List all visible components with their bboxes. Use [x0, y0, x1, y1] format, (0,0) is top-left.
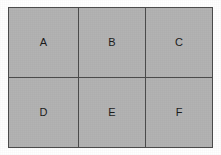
grid-cell-f[interactable]: F [146, 78, 212, 147]
cell-grid: A B C D E F [8, 7, 213, 148]
grid-cell-label: E [108, 107, 115, 118]
grid-cell-label: A [40, 37, 47, 48]
grid-cell-b[interactable]: B [79, 8, 146, 78]
grid-cell-label: B [108, 37, 115, 48]
grid-cell-c[interactable]: C [146, 8, 212, 78]
grid-cell-label: D [40, 107, 48, 118]
grid-cell-e[interactable]: E [79, 78, 146, 147]
grid-cell-a[interactable]: A [9, 8, 79, 78]
grid-cell-d[interactable]: D [9, 78, 79, 147]
grid-cell-label: F [176, 107, 183, 118]
grid-cell-label: C [175, 37, 183, 48]
figure-canvas: A B C D E F [0, 0, 221, 155]
